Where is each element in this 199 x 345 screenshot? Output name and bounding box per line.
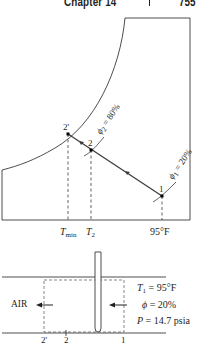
station-1: 1 (121, 336, 126, 345)
axis-label-tmin: Tmin (60, 227, 76, 239)
pressure-spec: P = 14.7 psia (137, 316, 190, 326)
state-point-1 (161, 195, 164, 198)
label-2: 2 (88, 139, 93, 148)
air-out-arrow-icon (36, 303, 42, 308)
air-in-arrow-icon (109, 303, 115, 308)
station-2: 2 (64, 336, 69, 345)
projection-lines (68, 134, 162, 220)
air-label: AIR (11, 300, 27, 310)
phi-spec: ϕ = 20% (142, 300, 176, 310)
station-2prime: 2' (41, 336, 47, 345)
state-point-2 (90, 149, 93, 152)
label-2prime: 2' (63, 123, 69, 132)
saturation-curve (2, 18, 125, 170)
axis-label-t1: 95°F (150, 227, 170, 237)
axis-label-t2: T2 (86, 227, 95, 239)
label-1: 1 (159, 185, 164, 194)
t1-spec: T1 = 95°F (137, 283, 176, 295)
thermometer (95, 252, 101, 332)
state-point-2prime (67, 133, 70, 136)
